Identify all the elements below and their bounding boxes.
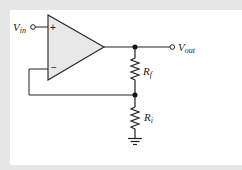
vout-label: Vout [178, 41, 196, 55]
vout-terminal [170, 45, 175, 50]
ri-label: Ri [143, 111, 153, 125]
minus-terminal-label: − [51, 62, 57, 73]
rf-resistor [131, 47, 139, 95]
rf-label: Rf [142, 65, 154, 79]
feedback-wire [29, 69, 135, 95]
ri-resistor [131, 95, 139, 138]
vin-label: Vin [13, 21, 26, 35]
plus-terminal-label: + [50, 22, 56, 33]
vin-terminal [31, 25, 36, 30]
ground-icon [128, 139, 142, 145]
circuit-diagram: + − Vin Vout Rf Ri [0, 0, 242, 170]
